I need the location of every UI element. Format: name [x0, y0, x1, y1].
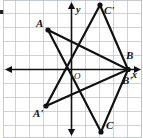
- vertex-label-b-prime: B': [122, 75, 132, 86]
- vertex-points: [43, 2, 130, 134]
- coordinate-plane: [0, 0, 143, 138]
- x-axis-label: x: [132, 70, 137, 80]
- vertex-label-c: C: [106, 120, 113, 131]
- triangle-shapes: [46, 5, 128, 132]
- vertex-label-c-prime: C': [104, 5, 114, 16]
- origin-label: O: [74, 72, 81, 81]
- vertex-label-b: B: [126, 50, 133, 61]
- vertex-label-a-prime: A': [33, 108, 43, 119]
- vertex-label-a: A: [36, 18, 43, 29]
- geometry-figure: O y x A C' B B' A' C: [0, 0, 143, 138]
- y-axis-label: y: [76, 5, 80, 15]
- axis-lines: [5, 2, 141, 136]
